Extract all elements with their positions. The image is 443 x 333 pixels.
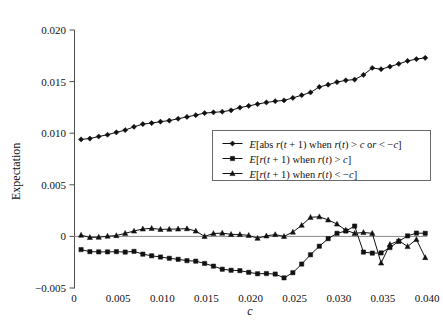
data-point-marker [141,252,145,256]
y-tick-label: 0.015 [41,76,66,88]
y-tick-label: 0.005 [41,179,66,191]
x-tick-label: 0 [71,292,77,304]
data-point-marker [282,276,286,280]
x-tick-label: 0.035 [371,292,396,304]
data-point-marker [255,272,259,276]
data-point-marker [176,257,180,261]
data-point-marker [291,271,295,275]
data-point-marker [114,130,119,135]
data-point-marker [326,82,331,87]
data-point-marker [202,261,206,265]
data-point-marker [326,237,330,241]
data-point-marker [176,116,181,121]
y-axis-title: Expectation [9,143,23,200]
data-point-marker [273,232,278,237]
data-point-marker [228,108,233,113]
data-point-marker [423,55,428,60]
data-point-marker [184,114,189,119]
data-point-marker [379,251,383,255]
series-line [81,217,425,263]
data-point-marker [264,271,268,275]
data-point-marker [114,250,118,254]
series-2 [79,224,427,280]
data-point-marker [105,250,109,254]
data-point-marker [149,120,154,125]
y-tick-label: 0.020 [41,24,66,36]
data-point-marker [79,247,83,251]
data-point-marker [194,259,198,263]
data-point-marker [123,250,127,254]
data-point-marker [370,251,374,255]
data-point-marker [185,259,189,263]
data-point-marker [193,113,198,118]
data-point-marker [273,272,277,276]
data-point-marker [308,90,313,95]
data-point-marker [361,230,366,235]
y-tick-label: 0 [61,230,67,242]
data-point-marker [255,101,260,106]
data-point-marker [78,137,83,142]
data-point-marker [220,109,225,114]
data-point-marker [379,67,384,72]
data-point-marker [343,78,348,83]
data-point-marker [247,270,251,274]
data-point-marker [387,64,392,69]
x-tick-label: 0.020 [238,292,263,304]
data-point-marker [123,128,128,133]
data-point-marker [211,110,216,115]
data-point-marker [202,110,207,115]
x-tick-label: 0.015 [194,292,219,304]
series-1 [78,55,427,142]
x-tick-label: 0.040 [415,292,440,304]
data-point-marker [405,234,409,238]
data-point-marker [361,250,365,254]
data-point-marker [414,231,418,235]
legend-label: E[r(t + 1) when r(t) < −c] [249,169,358,181]
data-point-marker [423,255,428,260]
data-point-marker [299,93,304,98]
x-tick-label: 0.010 [150,292,175,304]
y-tick-label: 0.010 [41,127,66,139]
data-point-marker [229,268,233,272]
data-point-marker [273,99,278,104]
data-point-marker [78,232,83,237]
x-tick-label: 0.005 [106,292,131,304]
data-point-marker [105,132,110,137]
data-point-marker [317,244,321,248]
data-point-marker [149,225,154,230]
data-point-marker [290,95,295,100]
data-point-marker [97,250,101,254]
data-point-marker [211,264,215,268]
x-tick-label: 0.030 [326,292,351,304]
legend-label: E[abs r(t + 1) when r(t) > c or < −c] [249,139,402,151]
data-point-marker [264,100,269,105]
data-point-marker [423,231,427,235]
data-point-marker [308,253,312,257]
x-axis-tick-labels: 00.0050.0100.0150.0200.0250.0300.0350.04… [71,292,440,304]
x-tick-label: 0.025 [282,292,307,304]
x-axis-title: c [247,304,253,318]
legend: E[abs r(t + 1) when r(t) > c or < −c]E[r… [213,131,431,181]
y-axis-tick-labels: 0.0200.0150.0100.0050−0.005 [35,24,66,294]
data-point-marker [140,122,145,127]
legend-marker-square-icon [230,156,234,160]
data-point-marker [131,124,136,129]
data-point-marker [379,260,384,265]
data-point-marker [88,250,92,254]
data-point-marker [335,231,339,235]
data-point-marker [396,61,401,66]
y-tick-label: −0.005 [35,282,66,294]
y-axis-ticks [70,30,75,288]
chart-canvas: 0.0200.0150.0100.0050−0.005 00.0050.0100… [0,0,443,333]
data-point-marker [167,118,172,123]
series-3 [78,214,427,265]
data-point-marker [132,249,136,253]
data-point-marker [158,119,163,124]
data-point-marker [150,254,154,258]
chart-figure: 0.0200.0150.0100.0050−0.005 00.0050.0100… [0,0,443,333]
legend-entry-1: E[abs r(t + 1) when r(t) > c or < −c] [223,139,402,151]
data-point-marker [414,57,419,62]
data-point-marker [405,244,410,249]
data-point-marker [220,267,224,271]
data-point-marker [290,229,295,234]
